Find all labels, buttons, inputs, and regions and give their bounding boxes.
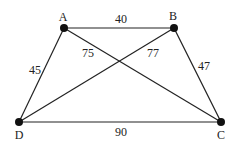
node-C — [217, 118, 225, 126]
node-label-C: C — [217, 129, 225, 141]
edge-weight-BD: 77 — [147, 47, 159, 59]
edge-weight-DC: 90 — [115, 126, 127, 138]
edge-weight-BC: 47 — [198, 60, 210, 72]
node-B — [170, 24, 178, 32]
node-D — [15, 118, 23, 126]
edge-weight-AD: 45 — [29, 64, 41, 76]
node-label-B: B — [169, 10, 177, 22]
node-label-A: A — [59, 11, 68, 23]
edge-weight-AB: 40 — [115, 13, 127, 25]
edge-weight-AC: 75 — [82, 47, 94, 59]
graph-diagram: 404575774790ABCD — [0, 0, 237, 145]
edge-BD — [19, 28, 174, 122]
node-A — [60, 24, 68, 32]
node-label-D: D — [15, 129, 24, 141]
